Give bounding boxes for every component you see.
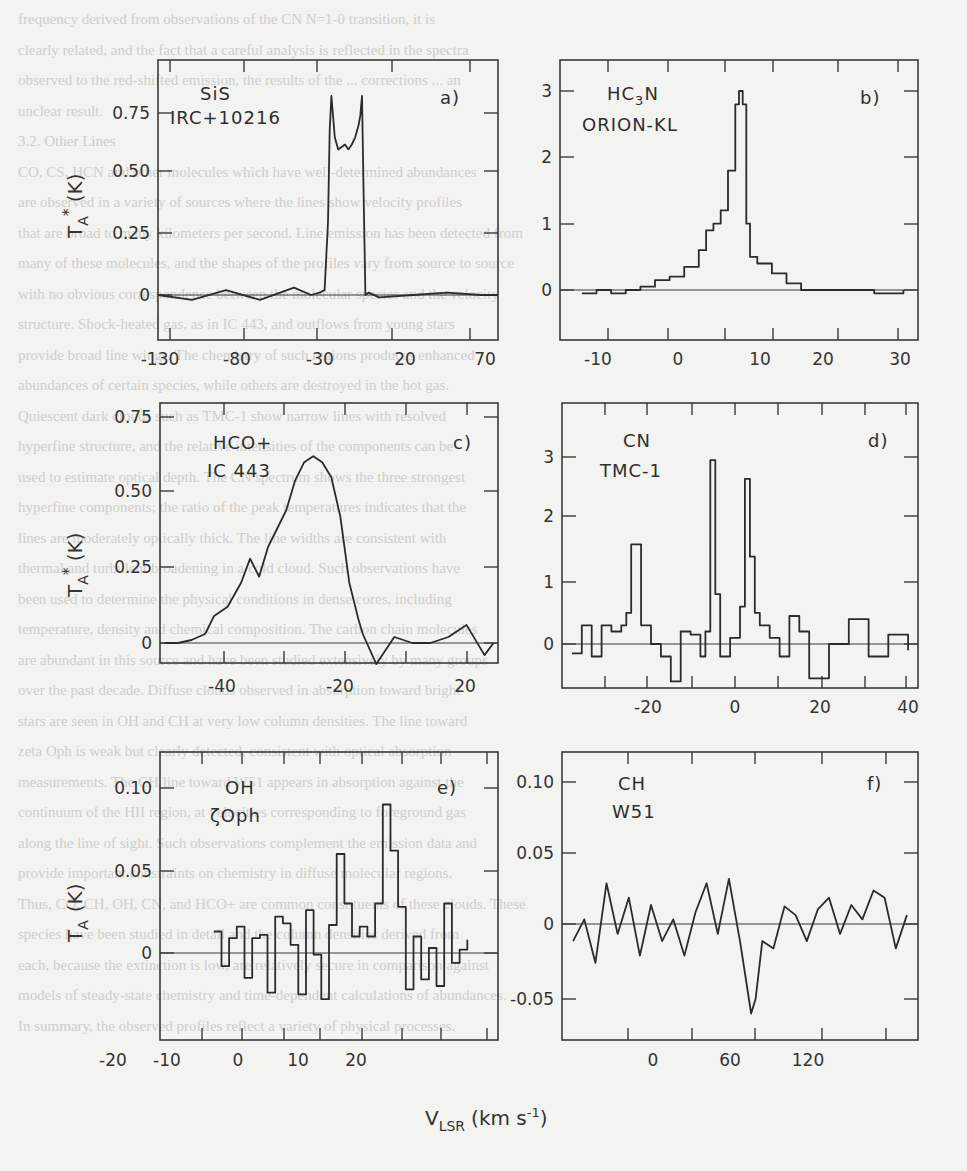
panel-b-xtick-label: 20 [812, 349, 834, 369]
panel-f-xtick-label: 120 [792, 1050, 824, 1070]
panel-d-xtick-label: 40 [897, 697, 919, 717]
spectra-figure: SiS IRC+10216 a) HC3N ORION-KL b) HCO+ I… [0, 0, 967, 1171]
panel-d-ytick-label: 1 [543, 572, 554, 592]
panel-f-ytick-label: 0.05 [516, 843, 554, 863]
panel-b-molecule: HC3N [607, 83, 659, 108]
panel-a-xtick-label: 20 [394, 349, 416, 369]
panel-c-xtick-label: 20 [454, 676, 476, 696]
panel-e-xtick-label: -20 [99, 1050, 127, 1070]
panel-e-xtick-label: 10 [287, 1050, 309, 1070]
panel-a-label: a) [440, 87, 460, 108]
panel-b-xtick-label: -10 [584, 349, 612, 369]
panel-d-molecule: CN [623, 430, 651, 451]
panel-b-ytick-label: 1 [541, 214, 552, 234]
panel-b-label: b) [860, 87, 880, 108]
panel-f-label: f) [867, 773, 882, 794]
panel-c-ytick-label: 0 [141, 633, 152, 653]
panel-d-frame [562, 403, 918, 688]
panel-e-label: e) [437, 777, 457, 798]
panel-c-label: c) [453, 432, 472, 453]
panel-a-xtick-label: -30 [306, 349, 334, 369]
panel-b-xtick-label: 10 [749, 349, 771, 369]
panel-e-xtick-label: 0 [233, 1050, 244, 1070]
panel-d-label: d) [868, 430, 888, 451]
panel-f-xtick-label: 0 [648, 1050, 659, 1070]
panel-e-ytick-label: 0.10 [114, 778, 152, 798]
panel-d-ytick-label: 3 [543, 447, 554, 467]
panel-f-xtick-label: 60 [719, 1050, 741, 1070]
panel-a-ytick-label: 0.50 [112, 161, 150, 181]
panel-d-xtick-label: -20 [634, 697, 662, 717]
panel-e-xtick-label: -10 [153, 1050, 181, 1070]
panel-a-xtick-label: -80 [223, 349, 251, 369]
panel-d-xtick-label: 20 [809, 697, 831, 717]
panel-b-xtick-label: 0 [673, 349, 684, 369]
panel-f-ytick-label: 0 [543, 914, 554, 934]
panel-c-source: IC 443 [207, 460, 271, 481]
panel-a-xtick-label: -130 [141, 349, 180, 369]
panel-c-xtick-label: -40 [208, 676, 236, 696]
panel-d-xtick-label: 0 [730, 697, 741, 717]
panel-c-xtick-label: -20 [326, 676, 354, 696]
y-axis-title-top: TA*(K) [59, 173, 91, 239]
panel-b-ytick-label: 2 [541, 147, 552, 167]
y-axis-title-bottom: TA(K) [63, 883, 91, 943]
panel-f-ytick-label: -0.05 [510, 989, 554, 1009]
panel-c-ytick-label: 0.25 [114, 557, 152, 577]
panel-a-ytick-label: 0.25 [112, 223, 150, 243]
panel-a-xtick-label: 70 [474, 349, 496, 369]
panel-a-source: IRC+10216 [170, 107, 281, 128]
panel-e-xtick-label: 20 [345, 1050, 367, 1070]
panel-e-spectrum-line [214, 805, 467, 1000]
panel-a-ytick-label: 0 [139, 285, 150, 305]
panel-b-xtick-label: 30 [889, 349, 911, 369]
panel-f-spectrum-line [573, 879, 907, 1014]
panel-e-ytick-label: 0.05 [114, 861, 152, 881]
panel-f-molecule: CH [618, 773, 646, 794]
panel-e-molecule: OH [225, 777, 255, 798]
panel-a-molecule: SiS [200, 83, 231, 104]
panel-c-ytick-label: 0.50 [114, 481, 152, 501]
panel-b-ytick-label: 0 [541, 280, 552, 300]
panel-c-ytick-label: 0.75 [114, 407, 152, 427]
panel-d-ytick-label: 2 [543, 506, 554, 526]
panel-b-ytick-label: 3 [541, 81, 552, 101]
panel-e-source: ζOph [210, 805, 261, 826]
panel-f-ytick-label: 0.10 [516, 772, 554, 792]
y-axis-title-middle: TA*(K) [59, 532, 91, 598]
panel-c-molecule: HCO+ [213, 432, 272, 453]
panel-d-ytick-label: 0 [543, 634, 554, 654]
panel-f-source: W51 [612, 801, 656, 822]
panel-b-source: ORION-KL [582, 114, 678, 135]
panel-d-spectrum-line [572, 460, 908, 681]
panel-f-frame [562, 752, 918, 1040]
panel-e-ytick-label: 0 [141, 943, 152, 963]
panel-c-spectrum-line [165, 456, 494, 664]
x-axis-title: VLSR(km s-1) [425, 1105, 548, 1134]
panel-a-ytick-label: 0.75 [112, 103, 150, 123]
panel-d-source: TMC-1 [599, 460, 662, 481]
